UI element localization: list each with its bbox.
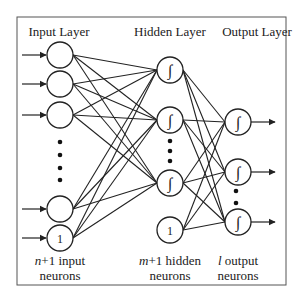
hidden-layer-title: Hidden Layer — [134, 24, 207, 39]
input-caption-line2: neurons — [39, 268, 80, 283]
neural-network-diagram: Input Layer Hidden Layer Output Layer 1 — [0, 0, 300, 303]
input-neuron — [47, 71, 73, 97]
hidden-caption-line2: neurons — [149, 268, 190, 283]
hidden-caption-line1: m+1 hidden — [139, 253, 201, 268]
output-caption-line1: l output — [218, 253, 258, 268]
input-neuron — [47, 102, 73, 128]
input-neuron — [47, 42, 73, 68]
hidden-bias-label: 1 — [167, 224, 173, 238]
input-bias-label: 1 — [57, 232, 63, 246]
output-caption-line2: neurons — [217, 268, 258, 283]
input-caption-line1: n+1 input — [35, 253, 86, 268]
input-neuron — [47, 196, 73, 222]
output-layer-title: Output Layer — [222, 24, 292, 39]
hidden-ellipsis-dots — [168, 139, 173, 164]
input-layer-title: Input Layer — [28, 24, 90, 39]
